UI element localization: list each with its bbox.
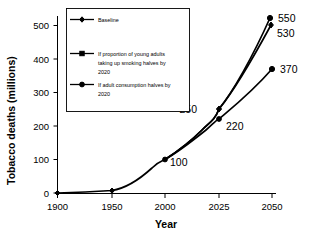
value-label-550: 550 [278,12,296,24]
marker-2050-370 [269,66,274,71]
y-tick-label-100: 100 [33,154,49,165]
y-tick-label-500: 500 [33,20,49,31]
x-tick-label-2025: 2025 [208,201,229,212]
y-tick-label-200: 200 [33,121,49,132]
chart-container: 500 400 300 200 100 0 Tobacco deaths (mi… [0,0,310,252]
y-tick-label-300: 300 [33,87,49,98]
value-label-530: 530 [277,27,295,39]
legend-label-adult-consumption-line2: 2020 [98,91,110,97]
x-tick-label-1950: 1950 [101,201,122,212]
y-tick-label-0: 0 [44,188,49,199]
legend-label-young-adults-line3: 2020 [98,69,110,75]
x-tick-label-2050: 2050 [261,201,282,212]
y-axis-title: Tobacco deaths (millions) [5,56,17,185]
x-tick-label-1900: 1900 [47,201,68,212]
tobacco-deaths-line-chart: 500 400 300 200 100 0 Tobacco deaths (mi… [0,0,310,252]
legend-label-baseline-line1: Baseline [98,17,119,23]
y-axis: 500 400 300 200 100 0 Tobacco deaths (mi… [5,16,58,199]
x-axis-title: Year [155,218,177,230]
legend-label-young-adults-line2: taking up smoking halves by [98,60,166,66]
x-tick-label-2000: 2000 [154,201,175,212]
marker-2050-550 [267,15,272,20]
diamond-marker-1950 [110,188,115,193]
square-marker [80,51,84,55]
diamond-marker-1900 [55,191,60,196]
legend-label-adult-consumption-line1: If adult consumption halves by [98,82,171,88]
circle-marker [80,82,85,87]
legend-label-young-adults-line1: If proportion of young adults [98,51,165,57]
value-label-100: 100 [170,156,188,168]
x-axis: 1900 1950 2000 2025 2050 Year [47,194,283,231]
value-label-220: 220 [226,120,244,132]
legend: Baseline If proportion of young adults t… [67,9,190,112]
value-label-370: 370 [280,63,298,75]
y-tick-label-400: 400 [33,54,49,65]
marker-2025-220 [217,117,222,122]
marker-2000-100 [163,157,168,162]
